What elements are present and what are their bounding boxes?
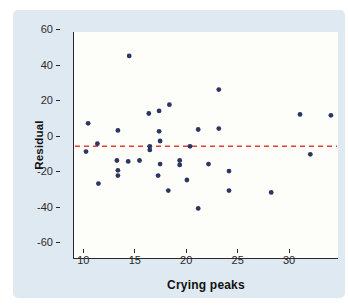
data-point [269,190,274,195]
data-point [84,149,89,154]
y-tick-label: -40 [23,201,53,214]
data-point [206,162,211,167]
data-point [196,206,201,211]
data-point [147,148,152,153]
data-point [146,111,151,116]
y-tick-mark [56,242,60,243]
x-tick-label: 20 [173,254,199,267]
data-point [157,129,162,134]
y-tick-label: 60 [23,23,53,36]
y-tick-label: 0 [23,130,53,143]
x-tick-mark [134,249,135,253]
y-tick-mark [56,29,60,30]
y-tick-label: -60 [23,236,53,249]
x-tick-label: 25 [225,254,251,267]
y-tick-mark [56,136,60,137]
data-point [166,188,171,193]
y-tick-mark [56,171,60,172]
data-point [137,158,142,163]
x-tick-mark [83,249,84,253]
data-point [126,159,131,164]
x-tick-mark [289,249,290,253]
data-point [177,163,182,168]
data-point [156,173,161,178]
data-point [116,128,121,133]
data-point [329,113,334,118]
data-point [116,168,121,173]
data-point [185,178,190,183]
x-tick-label: 15 [122,254,148,267]
data-point [177,158,182,163]
y-tick-mark [56,65,60,66]
data-point [308,152,313,157]
scatter-plot [74,32,338,258]
data-point [188,144,193,149]
data-point [298,112,303,117]
figure-canvas: Residual Crying peaks 6040200-20-40-6010… [0,0,348,306]
chart-card: Residual Crying peaks 6040200-20-40-6010… [13,10,345,298]
data-point [127,54,132,59]
x-axis-title: Crying peaks [146,278,266,292]
data-point [95,141,100,146]
y-tick-mark [56,100,60,101]
y-tick-label: -20 [23,165,53,178]
data-point [167,102,172,107]
data-point [216,126,221,131]
data-point [86,121,91,126]
data-point [227,188,232,193]
x-tick-mark [237,249,238,253]
data-point [157,109,162,114]
data-point [116,173,121,178]
data-point [96,181,101,186]
data-point [115,158,120,163]
y-tick-label: 40 [23,59,53,72]
x-tick-label: 30 [276,254,302,267]
data-point [196,127,201,132]
y-tick-label: 20 [23,94,53,107]
data-point [158,139,163,144]
x-tick-label: 10 [70,254,96,267]
plot-area [73,32,338,259]
x-tick-mark [186,249,187,253]
y-tick-mark [56,207,60,208]
data-point [227,169,232,174]
data-point [158,162,163,167]
data-point [216,87,221,92]
